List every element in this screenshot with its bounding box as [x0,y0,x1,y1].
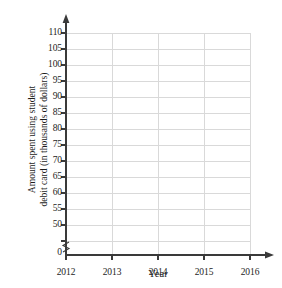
vertical-gridlines [112,33,250,255]
coordinate-grid-chart: 110 105 100 95 90 85 80 75 70 65 60 55 5… [0,0,282,288]
y-axis-arrow-icon [63,14,70,23]
x-tick-marks [66,255,250,260]
x-axis-title: Year [66,268,250,279]
axis-break-zigzag-icon [63,242,69,252]
x-axis-arrow-icon [265,252,274,259]
chart-screenshot: 110 105 100 95 90 85 80 75 70 65 60 55 5… [0,0,282,288]
